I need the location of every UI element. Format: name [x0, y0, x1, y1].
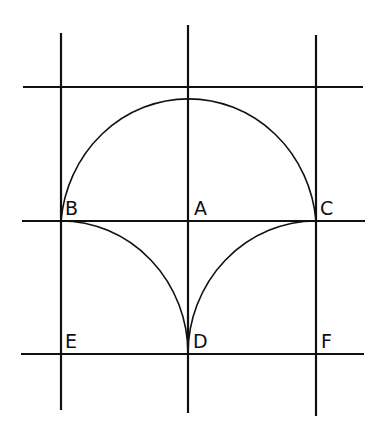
- label-e: E: [65, 332, 77, 351]
- label-c: C: [320, 199, 333, 218]
- label-b: B: [65, 199, 78, 218]
- label-d: D: [193, 332, 208, 351]
- label-a: A: [194, 199, 207, 218]
- geometry-diagram: [0, 0, 385, 443]
- lower-left-quarter-arc: [61, 221, 188, 354]
- label-f: F: [321, 332, 332, 351]
